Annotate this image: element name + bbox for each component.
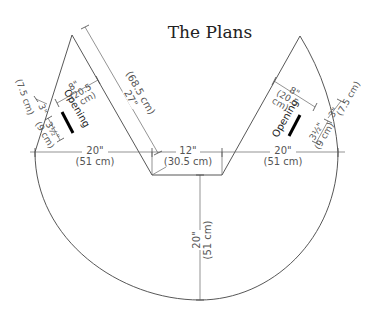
dimension-right-opening-length: 3½" (9 cm) bbox=[305, 116, 336, 151]
svg-text:(51 cm): (51 cm) bbox=[202, 220, 213, 259]
svg-text:20": 20" bbox=[86, 145, 103, 156]
svg-text:(7.5 cm): (7.5 cm) bbox=[335, 80, 363, 118]
svg-text:(7.5 cm): (7.5 cm) bbox=[14, 77, 36, 116]
dimension-right-width: 20" (51 cm) bbox=[264, 145, 303, 167]
svg-text:(51 cm): (51 cm) bbox=[264, 156, 303, 167]
svg-text:12": 12" bbox=[179, 145, 196, 156]
svg-text:(30.5 cm): (30.5 cm) bbox=[164, 156, 213, 167]
plans-diagram: The Plans 20" (51 cm) 12" (30.5 cm) bbox=[0, 0, 377, 319]
dimension-center-width: 12" (30.5 cm) bbox=[164, 145, 213, 167]
dimension-vertical-height: 20" (51 cm) bbox=[191, 175, 213, 300]
diagram-title: The Plans bbox=[168, 22, 252, 42]
svg-text:20": 20" bbox=[191, 231, 202, 248]
dimension-left-opening-length: 3½" (9 cm) bbox=[33, 115, 64, 150]
dimension-left-width: 20" (51 cm) bbox=[76, 145, 115, 167]
dimension-right-edge-offset: 3" (7.5 cm) bbox=[327, 80, 363, 120]
svg-text:(51 cm): (51 cm) bbox=[76, 156, 115, 167]
dimension-left-edge-offset: (7.5 cm) 3" bbox=[14, 77, 50, 116]
pattern-outline bbox=[35, 35, 338, 300]
svg-text:20": 20" bbox=[274, 145, 291, 156]
